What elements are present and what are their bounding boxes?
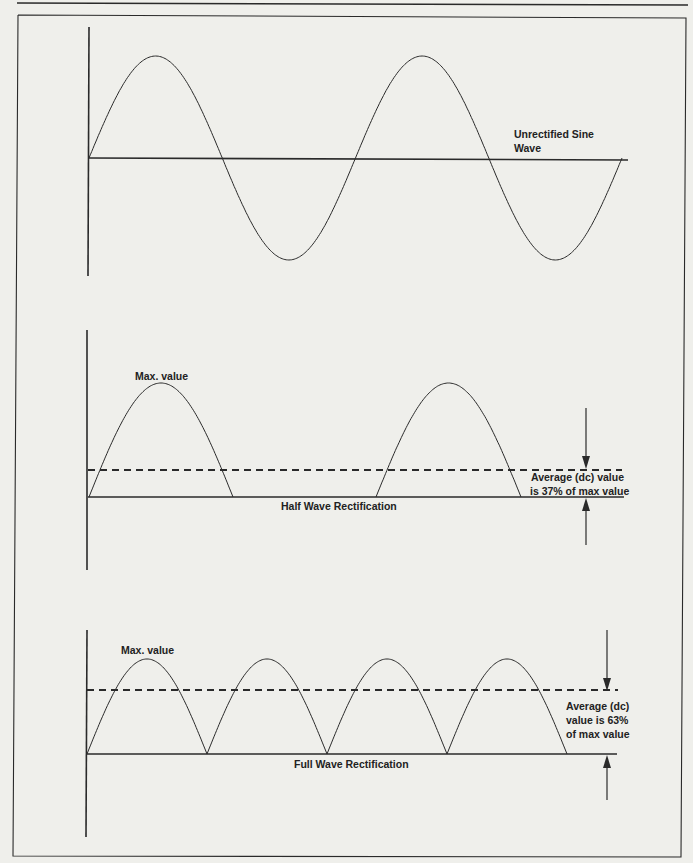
half-wave-max-label: Max. value [135, 370, 188, 383]
arrow-up-icon [582, 498, 590, 511]
half-wave-average-label-line2: is 37% of max value [530, 485, 629, 498]
x-axis [89, 158, 628, 160]
y-axis [88, 27, 89, 276]
unrectified-label-line1: Unrectified Sine [514, 128, 594, 141]
panel-full-wave [86, 630, 618, 837]
arrow-down-icon [603, 678, 611, 691]
half-wave-pulses [89, 383, 521, 497]
panel-half-wave [87, 330, 624, 570]
half-wave-title: Half Wave Rectification [281, 500, 397, 513]
full-wave-max-label: Max. value [121, 644, 174, 657]
full-wave-average-label-line3: of max value [566, 728, 630, 741]
y-axis [86, 630, 87, 837]
full-wave-title: Full Wave Rectification [294, 758, 409, 771]
half-wave-average-label-line1: Average (dc) value [531, 471, 624, 484]
unrectified-label-line2: Wave [514, 142, 541, 155]
full-wave-average-label-line1: Average (dc) [566, 700, 629, 713]
full-wave-pulses [87, 659, 567, 754]
full-wave-average-label-line2: value is 63% [566, 714, 628, 727]
panel-unrectified [88, 27, 628, 276]
page-top-rule [17, 3, 688, 5]
arrow-up-icon [603, 755, 611, 768]
arrow-down-icon [582, 456, 590, 469]
